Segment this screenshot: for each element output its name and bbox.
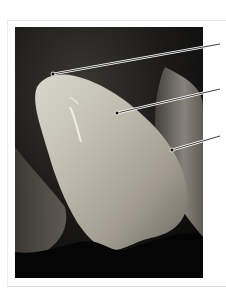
callout-line-3 [170, 136, 220, 152]
callout-dot-3 [170, 148, 174, 152]
callout-line-2 [115, 89, 220, 115]
callout-dot-1 [51, 72, 55, 76]
callout-line-1 [51, 44, 220, 76]
callout-dot-2 [115, 111, 119, 115]
callout-layer [0, 0, 226, 295]
